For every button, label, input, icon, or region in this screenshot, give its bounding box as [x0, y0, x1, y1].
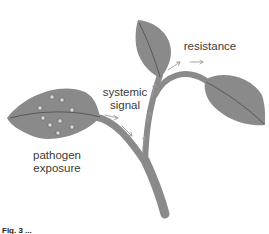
pathogen-label-line2: exposure — [22, 162, 92, 175]
pathogen-exposure-label: pathogen exposure — [22, 149, 92, 175]
figure-caption: Fig. 3 ... — [2, 226, 267, 234]
infected-leaf — [7, 89, 100, 139]
right-leaf — [205, 75, 265, 125]
systemic-label-line2: signal — [98, 99, 152, 112]
systemic-label-line1: systemic — [98, 86, 152, 99]
systemic-signal-label: systemic signal — [98, 86, 152, 112]
resistance-label: resistance — [178, 40, 242, 53]
pathogen-label-line1: pathogen — [22, 149, 92, 162]
plant-diagram — [0, 0, 269, 234]
top-leaf — [136, 20, 171, 78]
